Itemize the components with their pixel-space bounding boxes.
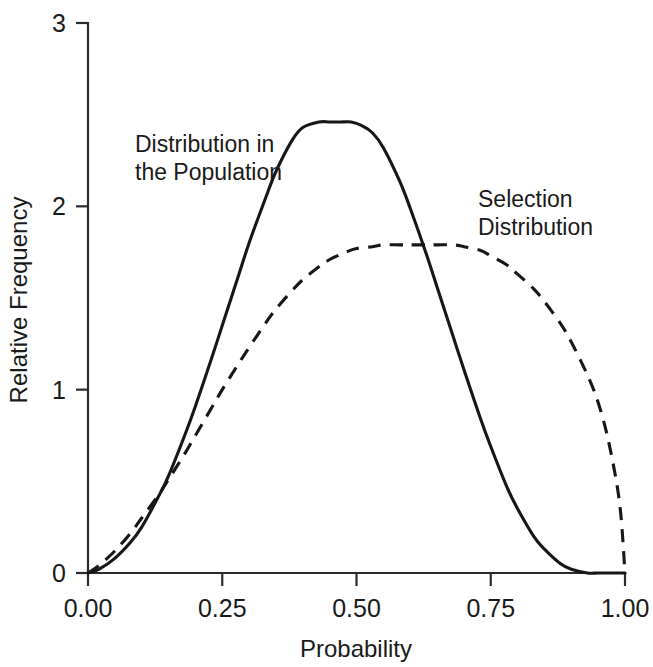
x-tick-label: 0.25 bbox=[198, 594, 247, 622]
x-tick-label: 0.50 bbox=[332, 594, 381, 622]
x-axis-title: Probability bbox=[300, 635, 412, 662]
x-tick-label: 1.00 bbox=[601, 594, 650, 622]
y-tick-label: 0 bbox=[52, 559, 66, 587]
selection-annotation-line-1: Selection bbox=[478, 186, 573, 212]
x-tick-label: 0.00 bbox=[64, 594, 113, 622]
y-tick-label: 1 bbox=[52, 376, 66, 404]
population-annotation-line-2: the Population bbox=[135, 159, 282, 185]
selection-annotation-line-2: Distribution bbox=[478, 214, 593, 240]
y-tick-label: 3 bbox=[52, 9, 66, 37]
y-axis-title: Relative Frequency bbox=[5, 197, 32, 404]
x-tick-label: 0.75 bbox=[466, 594, 515, 622]
population-annotation-line-1: Distribution in bbox=[135, 131, 274, 157]
y-tick-label: 2 bbox=[52, 192, 66, 220]
x-axis-ticks: 0.000.250.500.751.00 bbox=[64, 573, 650, 622]
population-annotation: Distribution in the Population bbox=[135, 131, 282, 185]
y-axis-ticks: 0123 bbox=[52, 9, 88, 587]
chart-figure: 0123 0.000.250.500.751.00 Probability Re… bbox=[0, 0, 653, 667]
selection-annotation: Selection Distribution bbox=[478, 186, 593, 240]
chart-svg: 0123 0.000.250.500.751.00 Probability Re… bbox=[0, 0, 653, 667]
curve-selection-distribution bbox=[88, 245, 625, 573]
